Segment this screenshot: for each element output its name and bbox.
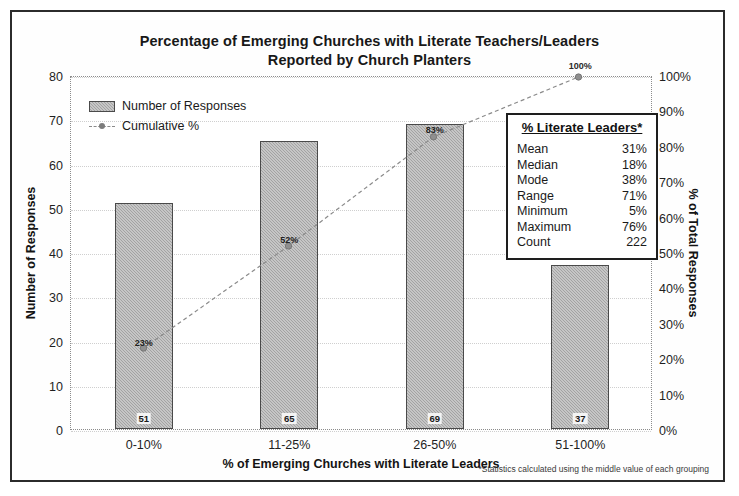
y-axis-tick-label: 10: [49, 380, 63, 394]
secondary-y-axis-tick-label: 0%: [659, 424, 677, 438]
secondary-y-axis-tick-label: 40%: [659, 282, 684, 296]
y-axis-tick-label: 40: [49, 247, 63, 261]
legend-label-cumulative: Cumulative %: [122, 117, 199, 135]
gridline: [71, 431, 651, 432]
statistics-row: Median18%: [517, 158, 647, 174]
x-axis-tick-label: 26-50%: [413, 438, 456, 452]
statistics-value: 31%: [622, 142, 647, 158]
statistics-row: Mean31%: [517, 142, 647, 158]
bar-value-label: 65: [282, 413, 297, 424]
chart-title-line-2: Reported by Church Planters: [12, 51, 727, 70]
dashed-line-marker-icon: [89, 121, 115, 132]
footnote: *Statistics calculated using the middle …: [478, 464, 709, 474]
statistics-row: Count222: [517, 235, 647, 251]
y-axis-title: Number of Responses: [24, 76, 40, 430]
bar-swatch-icon: [89, 101, 115, 112]
legend-item-bars: Number of Responses: [89, 97, 246, 115]
plot-area: 80706050403020100 100%90%80%70%60%50%40%…: [70, 76, 652, 430]
bar-value-label: 51: [136, 413, 151, 424]
cumulative-value-label: 100%: [569, 61, 592, 71]
statistics-label: Mean: [517, 142, 548, 158]
bar: 37: [551, 265, 609, 429]
secondary-y-axis-tick-label: 60%: [659, 212, 684, 226]
statistics-value: 76%: [622, 220, 647, 236]
y-axis-tick-label: 50: [49, 203, 63, 217]
x-axis-tick-label: 0-10%: [126, 438, 162, 452]
statistics-label: Mode: [517, 173, 548, 189]
statistics-value: 5%: [629, 204, 647, 220]
bar: 51: [115, 203, 173, 429]
chart-legend: Number of Responses Cumulative %: [89, 97, 246, 137]
statistics-label: Minimum: [517, 204, 568, 220]
statistics-value: 71%: [622, 189, 647, 205]
secondary-y-axis-tick-label: 70%: [659, 176, 684, 190]
secondary-y-axis-tick-label: 100%: [659, 70, 691, 84]
x-axis-tick-label: 51-100%: [555, 438, 605, 452]
secondary-y-axis-tick-label: 30%: [659, 318, 684, 332]
y-axis-tick-label: 20: [49, 336, 63, 350]
secondary-y-axis-tick-label: 50%: [659, 247, 684, 261]
legend-item-cumulative: Cumulative %: [89, 117, 246, 135]
bar-value-label: 37: [573, 413, 588, 424]
y-axis-tick-label: 60: [49, 159, 63, 173]
secondary-y-axis-tick-label: 20%: [659, 353, 684, 367]
secondary-y-axis-title: % of Total Responses: [684, 76, 700, 430]
cumulative-value-label: 23%: [135, 338, 153, 348]
cumulative-value-label: 52%: [280, 235, 298, 245]
statistics-row: Maximum76%: [517, 220, 647, 236]
secondary-y-axis-tick-label: 80%: [659, 141, 684, 155]
statistics-value: 38%: [622, 173, 647, 189]
chart-title: Percentage of Emerging Churches with Lit…: [12, 32, 727, 70]
legend-label-bars: Number of Responses: [122, 97, 246, 115]
statistics-box: % Literate Leaders* Mean31%Median18%Mode…: [506, 113, 658, 260]
bar: 69: [406, 124, 464, 429]
y-axis-tick-label: 0: [56, 424, 63, 438]
y-axis-tick-label: 30: [49, 291, 63, 305]
secondary-y-axis-tick-label: 10%: [659, 389, 684, 403]
statistics-label: Maximum: [517, 220, 571, 236]
statistics-row: Range71%: [517, 189, 647, 205]
chart-title-line-1: Percentage of Emerging Churches with Lit…: [140, 33, 600, 49]
y-axis-tick-label: 70: [49, 114, 63, 128]
statistics-label: Range: [517, 189, 554, 205]
chart-frame: Percentage of Emerging Churches with Lit…: [10, 10, 725, 482]
secondary-y-axis-tick-label: 90%: [659, 105, 684, 119]
statistics-value: 222: [626, 235, 647, 251]
bar: 65: [260, 141, 318, 429]
statistics-label: Count: [517, 235, 550, 251]
statistics-label: Median: [517, 158, 558, 174]
cumulative-value-label: 83%: [426, 125, 444, 135]
statistics-box-title: % Literate Leaders*: [517, 120, 647, 142]
gridline: [71, 77, 651, 78]
bar-value-label: 69: [427, 413, 442, 424]
statistics-row: Mode38%: [517, 173, 647, 189]
statistics-rows: Mean31%Median18%Mode38%Range71%Minimum5%…: [517, 142, 647, 251]
x-axis-tick-label: 11-25%: [268, 438, 310, 452]
statistics-value: 18%: [622, 158, 647, 174]
y-axis-tick-label: 80: [49, 70, 63, 84]
statistics-row: Minimum5%: [517, 204, 647, 220]
